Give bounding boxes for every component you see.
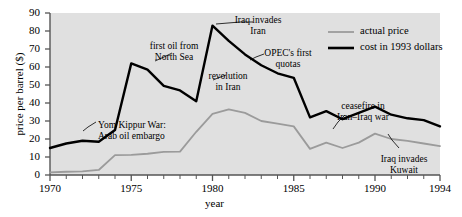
annotation-line: revolution	[208, 71, 247, 82]
annotation-first-oil-north-sea: first oil fromNorth Sea	[150, 41, 199, 62]
y-tick-label: 70	[18, 42, 40, 54]
y-tick-label: 90	[18, 6, 40, 18]
annotation-iraq-invades-kuwait: Iraq invadesKuwait	[381, 154, 428, 175]
y-tick-label: 10	[18, 150, 40, 162]
legend-label: actual price	[360, 25, 409, 36]
annotation-yom-kippur: Yom Kippur War:Arab oil embargo	[98, 120, 166, 141]
x-tick-label: 1970	[30, 182, 70, 194]
y-tick-label: 30	[18, 114, 40, 126]
annotation-line: Iran–Iraq war	[337, 112, 389, 123]
legend-label: cost in 1993 dollars	[360, 41, 443, 52]
x-axis-title: year	[205, 197, 224, 209]
annotation-line: in Iran	[208, 82, 247, 93]
x-tick-label: 1990	[355, 182, 395, 194]
annotation-line: Iraq invades	[235, 15, 282, 26]
annotation-line: Iraq invades	[381, 154, 428, 165]
annotation-line: North Sea	[150, 52, 199, 63]
annotation-line: Yom Kippur War:	[98, 120, 166, 131]
annotation-line: Arab oil embargo	[98, 131, 166, 142]
y-tick-label: 0	[18, 168, 40, 180]
annotation-line: Kuwait	[381, 165, 428, 176]
annotation-opec-first-quotas: OPEC's firstquotas	[264, 48, 311, 69]
annotation-line: first oil from	[150, 41, 199, 52]
x-tick-label: 1985	[274, 182, 314, 194]
annotation-line: Iran	[235, 26, 282, 37]
x-tick-label: 1975	[111, 182, 151, 194]
oil-price-chart: price per barrel ($) year 01020304050607…	[0, 0, 462, 217]
y-tick-label: 50	[18, 78, 40, 90]
y-axis-ticks	[45, 13, 50, 175]
annotation-line: ceasefire in	[337, 101, 389, 112]
y-tick-label: 80	[18, 24, 40, 36]
annotation-line: OPEC's first	[264, 48, 311, 59]
annotation-revolution-in-iran: revolutionin Iran	[208, 71, 247, 92]
x-tick-label: 1980	[193, 182, 233, 194]
annotation-line: quotas	[264, 59, 311, 70]
annotation-iraq-invades-iran: Iraq invadesIran	[235, 15, 282, 36]
x-tick-label: 1994	[420, 182, 460, 194]
y-tick-label: 60	[18, 60, 40, 72]
plot-area-background	[50, 13, 440, 175]
annotation-ceasefire-iran-iraq: ceasefire inIran–Iraq war	[337, 101, 389, 122]
y-tick-label: 20	[18, 132, 40, 144]
y-tick-label: 40	[18, 96, 40, 108]
